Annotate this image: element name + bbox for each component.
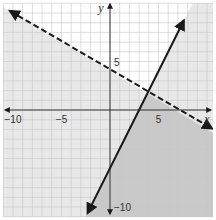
y-tick-label: −10 [114,202,131,213]
y-tick-label: 5 [114,57,120,68]
x-tick-label: −10 [5,114,22,125]
x-tick-label: −5 [56,114,68,125]
coordinate-plane: −10−555−10xy [0,0,216,220]
x-axis-label: x [203,112,210,126]
y-axis-label: y [97,1,104,15]
x-tick-label: 5 [156,114,162,125]
